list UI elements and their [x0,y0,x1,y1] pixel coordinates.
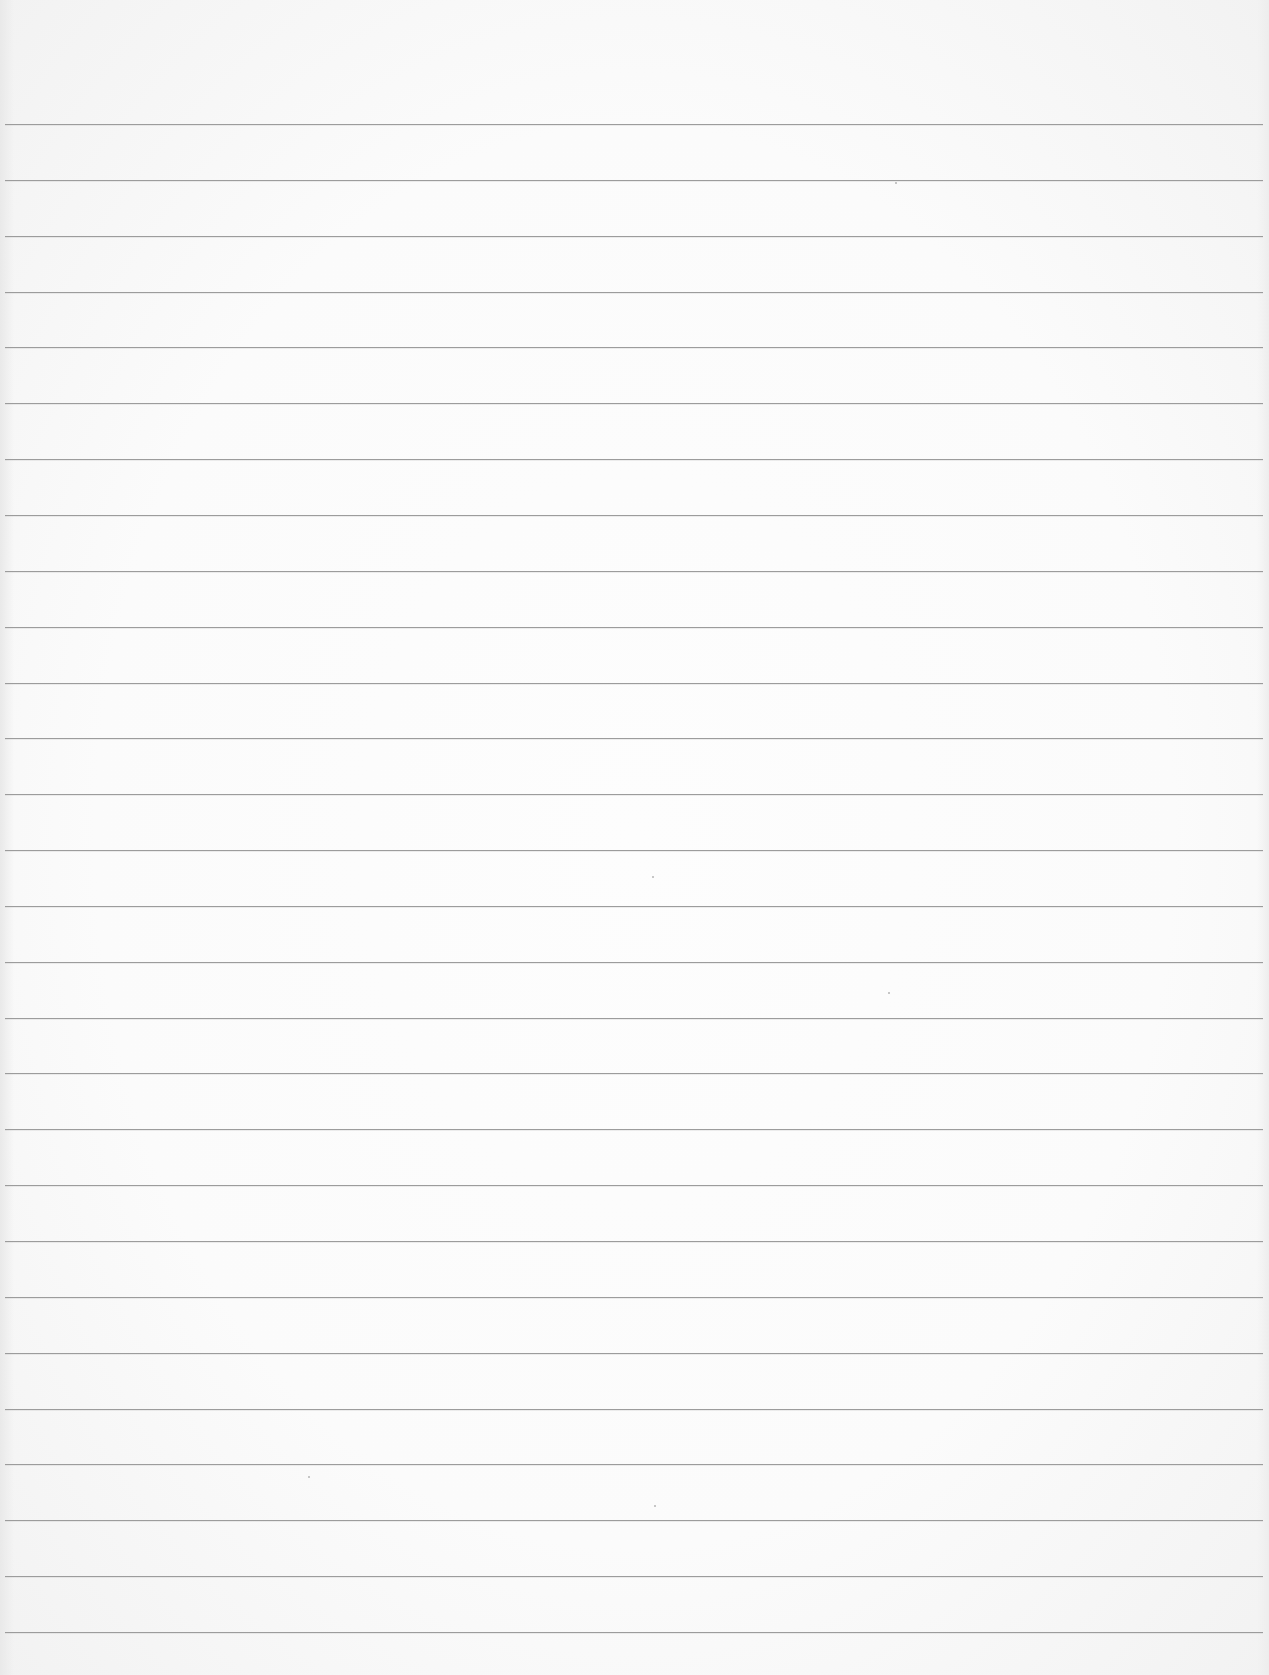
ruled-line [5,1129,1263,1130]
ruled-line [5,850,1263,851]
ruled-line [5,1520,1263,1521]
ruled-line [5,1073,1263,1074]
ruled-line [5,1297,1263,1298]
paper-speck [654,1505,656,1507]
ruled-line [5,403,1263,404]
ruled-line [5,1464,1263,1465]
ruled-line [5,1241,1263,1242]
ruled-line [5,1018,1263,1019]
ruled-line [5,1353,1263,1354]
ruled-line [5,236,1263,237]
left-edge-shadow [0,0,14,1675]
ruled-line [5,459,1263,460]
ruled-line [5,1185,1263,1186]
paper-speck [888,992,890,994]
ruled-line [5,180,1263,181]
ruled-line [5,515,1263,516]
ruled-line [5,292,1263,293]
ruled-line [5,906,1263,907]
ruled-line [5,627,1263,628]
paper-speck [308,1476,310,1478]
paper-speck [895,182,897,184]
ruled-line [5,1576,1263,1577]
ruled-line [5,571,1263,572]
ruled-line [5,962,1263,963]
ruled-line [5,683,1263,684]
ruled-line [5,347,1263,348]
paper-speck [652,876,654,878]
lined-paper-sheet [0,0,1269,1675]
ruled-line [5,794,1263,795]
ruled-line [5,1409,1263,1410]
right-edge-shadow [1257,0,1269,1675]
ruled-line [5,738,1263,739]
ruled-line [5,1632,1263,1633]
ruled-line [5,124,1263,125]
